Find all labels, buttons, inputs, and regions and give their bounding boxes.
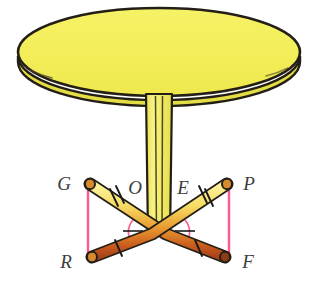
rod-cap-R bbox=[87, 252, 97, 262]
rod-cap-P bbox=[222, 179, 232, 189]
table-top-ellipse bbox=[18, 8, 300, 96]
point-label-P: P bbox=[242, 173, 255, 194]
table-top-group bbox=[18, 8, 300, 106]
table-geometry-figure: G O E P R F bbox=[0, 0, 318, 294]
point-label-O: O bbox=[128, 177, 142, 198]
rod-cap-F bbox=[220, 252, 230, 262]
rod-cap-G bbox=[85, 179, 95, 189]
column-edge-line-right bbox=[162, 96, 163, 234]
point-label-R: R bbox=[59, 251, 72, 272]
point-label-E: E bbox=[176, 177, 189, 198]
point-label-F: F bbox=[241, 251, 254, 272]
point-label-G: G bbox=[57, 173, 71, 194]
pedestal-column-group bbox=[146, 94, 172, 236]
pedestal-column bbox=[146, 94, 172, 236]
column-edge-line-left bbox=[156, 96, 157, 234]
diagram-canvas: G O E P R F bbox=[0, 0, 318, 294]
